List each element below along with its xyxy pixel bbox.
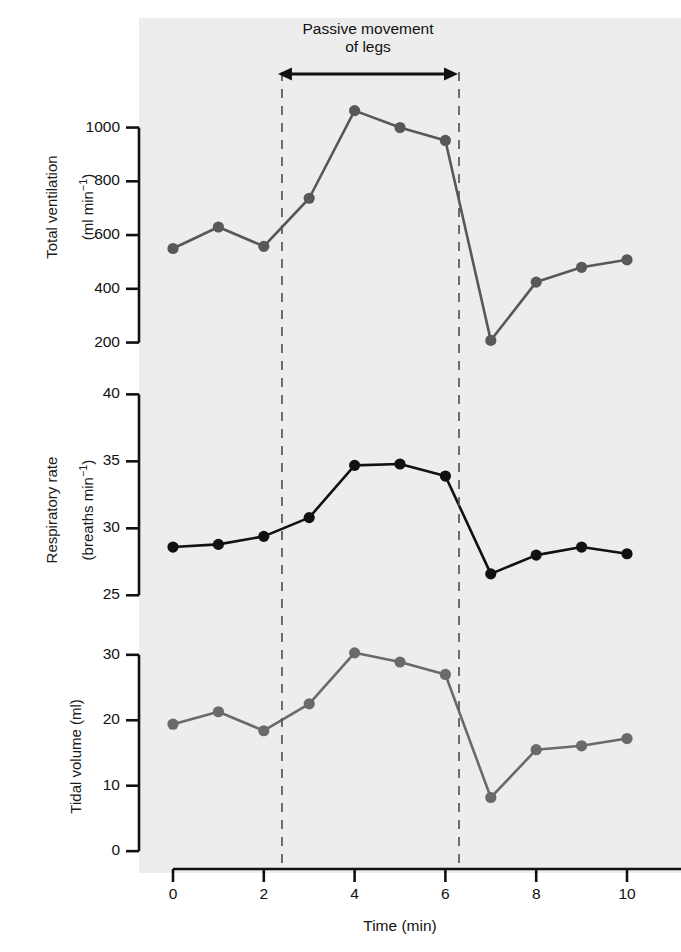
data-point-tidal-volume-t7	[485, 792, 496, 803]
intervention-markers	[282, 72, 459, 868]
data-point-tidal-volume-t9	[576, 740, 587, 751]
data-point-tidal-volume-t2	[258, 725, 269, 736]
data-point-tidal-volume-t4	[349, 647, 360, 658]
data-point-tidal-volume-t10	[621, 733, 632, 744]
data-point-respiratory-rate-t6	[440, 470, 451, 481]
y-ticklabel-total-ventilation-400: 400	[60, 279, 120, 297]
x-ticklabel-4: 4	[335, 885, 375, 903]
data-point-tidal-volume-t3	[304, 698, 315, 709]
arrow-head-left	[278, 68, 292, 81]
y-ticklabel-respiratory-rate-25: 25	[60, 585, 120, 603]
panel-tidal-volume	[126, 647, 633, 851]
series-line-respiratory-rate	[173, 464, 627, 574]
data-point-respiratory-rate-t3	[304, 512, 315, 523]
data-point-total-ventilation-t6	[440, 135, 451, 146]
data-point-total-ventilation-t9	[576, 262, 587, 273]
x-ticklabel-2: 2	[244, 885, 284, 903]
series-line-total-ventilation	[173, 111, 627, 341]
data-point-respiratory-rate-t7	[485, 568, 496, 579]
passive-movement-arrow	[278, 68, 458, 81]
y-ticklabel-total-ventilation-800: 800	[60, 171, 120, 189]
x-ticklabel-10: 10	[607, 885, 647, 903]
y-ticklabel-tidal-volume-10: 10	[60, 776, 120, 794]
data-point-total-ventilation-t2	[258, 241, 269, 252]
data-point-total-ventilation-t7	[485, 335, 496, 346]
data-point-tidal-volume-t1	[213, 706, 224, 717]
data-point-respiratory-rate-t1	[213, 539, 224, 550]
y-ticklabel-tidal-volume-0: 0	[60, 841, 120, 859]
x-ticklabel-6: 6	[425, 885, 465, 903]
y-ticklabel-total-ventilation-1000: 1000	[60, 118, 120, 136]
data-point-total-ventilation-t1	[213, 221, 224, 232]
y-ticklabel-tidal-volume-30: 30	[60, 645, 120, 663]
panel-respiratory-rate	[126, 394, 633, 595]
data-point-total-ventilation-t0	[167, 243, 178, 254]
data-point-tidal-volume-t5	[394, 656, 405, 667]
data-point-respiratory-rate-t9	[576, 541, 587, 552]
chart-canvas	[0, 0, 681, 952]
data-point-respiratory-rate-t2	[258, 531, 269, 542]
data-point-respiratory-rate-t4	[349, 460, 360, 471]
arrow-head-right	[444, 68, 458, 81]
data-point-tidal-volume-t6	[440, 669, 451, 680]
y-ticklabel-total-ventilation-200: 200	[60, 333, 120, 351]
panel-total-ventilation	[126, 105, 633, 346]
data-point-total-ventilation-t4	[349, 105, 360, 116]
data-point-total-ventilation-t3	[304, 193, 315, 204]
data-point-total-ventilation-t8	[531, 276, 542, 287]
y-ticklabel-respiratory-rate-30: 30	[60, 518, 120, 536]
data-point-respiratory-rate-t10	[621, 548, 632, 559]
data-point-tidal-volume-t0	[167, 719, 178, 730]
x-ticklabel-0: 0	[153, 885, 193, 903]
y-ticklabel-total-ventilation-600: 600	[60, 225, 120, 243]
data-point-respiratory-rate-t5	[394, 458, 405, 469]
data-point-total-ventilation-t5	[394, 122, 405, 133]
figure-root: Passive movement of legs Total ventilati…	[0, 0, 681, 952]
data-point-tidal-volume-t8	[531, 744, 542, 755]
y-ticklabel-respiratory-rate-40: 40	[60, 384, 120, 402]
x-axis	[173, 869, 681, 882]
y-ticklabel-respiratory-rate-35: 35	[60, 451, 120, 469]
series-line-tidal-volume	[173, 653, 627, 798]
data-point-respiratory-rate-t8	[531, 550, 542, 561]
data-point-total-ventilation-t10	[621, 254, 632, 265]
data-point-respiratory-rate-t0	[167, 541, 178, 552]
x-ticklabel-8: 8	[516, 885, 556, 903]
y-ticklabel-tidal-volume-20: 20	[60, 710, 120, 728]
